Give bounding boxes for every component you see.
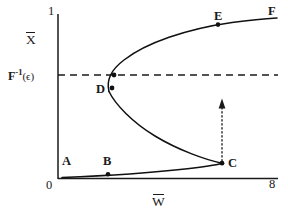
threshold-crossing-dot [112, 73, 117, 78]
point-label-D: D [96, 83, 105, 96]
point-dot-B [106, 172, 111, 177]
threshold-label: F-1(ϵ) [8, 68, 34, 82]
cropped-caption-strip [0, 211, 288, 219]
jump-arrow-head [219, 99, 226, 109]
bifurcation-figure: 1 0 8 X W F-1(ϵ) A B C D E F [0, 0, 288, 219]
y-axis-title: X [26, 33, 36, 47]
x-axis-title-text: W [152, 195, 165, 209]
point-dot-C [220, 161, 225, 166]
x-axis-max-tick: 8 [269, 178, 275, 191]
lower-stable-branch [62, 163, 222, 177]
point-label-E: E [214, 10, 222, 23]
point-dot-D [110, 86, 115, 91]
upper-stable-branch [108, 18, 277, 92]
point-label-C: C [228, 157, 237, 170]
threshold-label-argument: (ϵ) [22, 70, 34, 82]
y-axis-max-tick: 1 [48, 5, 54, 18]
point-label-B: B [103, 155, 111, 168]
point-label-A: A [62, 155, 71, 168]
x-axis-title: W [152, 195, 165, 209]
origin-tick: 0 [46, 179, 52, 192]
y-axis-title-text: X [26, 33, 36, 47]
middle-unstable-branch [109, 92, 222, 164]
point-label-F: F [268, 5, 276, 18]
plot-canvas [0, 0, 288, 219]
